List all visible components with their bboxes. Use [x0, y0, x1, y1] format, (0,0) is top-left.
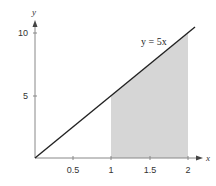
x-tick-label: 2	[185, 165, 190, 175]
y-axis-label: y	[31, 7, 36, 17]
x-axis-arrow-icon	[196, 156, 203, 161]
x-tick-label: 0.5	[67, 165, 80, 175]
y-tick-label: 5	[23, 91, 28, 101]
chart: 0.5 1 1.5 2 5 10 x y y = 5x	[0, 0, 216, 186]
equation-label: y = 5x	[141, 36, 167, 47]
x-axis-label: x	[205, 153, 210, 163]
shaded-area	[111, 33, 188, 158]
x-tick-label: 1.5	[144, 165, 157, 175]
y-axis-arrow-icon	[33, 20, 38, 27]
x-tick-label: 1	[108, 165, 113, 175]
y-tick-label: 10	[18, 28, 28, 38]
